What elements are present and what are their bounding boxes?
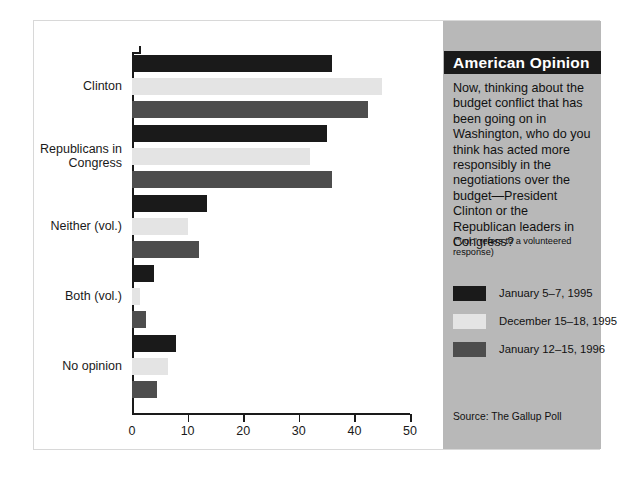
category-label: Clinton [83, 79, 122, 93]
x-tick-30 [299, 414, 301, 422]
chart-legend: January 5–7, 1995December 15–18, 1995Jan… [453, 279, 598, 363]
x-tick-label-10: 10 [181, 424, 195, 438]
x-tick-label-50: 50 [403, 424, 417, 438]
bar [132, 358, 168, 375]
legend-item: January 12–15, 1996 [453, 335, 598, 363]
legend-item: December 15–18, 1995 [453, 307, 598, 335]
x-tick-20 [243, 414, 245, 422]
bar [132, 148, 310, 165]
x-tick-40 [354, 414, 356, 422]
x-tick-label-30: 30 [292, 424, 306, 438]
legend-label: January 5–7, 1995 [499, 287, 593, 299]
poll-question-text: Now, thinking about the budget conflict … [453, 81, 593, 250]
bar [132, 78, 382, 95]
bar [132, 218, 188, 235]
legend-item: January 5–7, 1995 [453, 279, 598, 307]
bar [132, 335, 176, 352]
american-opinion-panel: American Opinion Now, thinking about the… [443, 21, 601, 449]
panel-title: American Opinion [444, 51, 601, 74]
bar [132, 125, 327, 142]
category-label: Republicans in Congress [40, 142, 122, 170]
bar [132, 171, 332, 188]
category-label: Both (vol.) [65, 289, 122, 303]
chart-area: 01020304050 ClintonRepublicans in Congre… [34, 21, 443, 449]
legend-label: January 12–15, 1996 [499, 343, 605, 355]
x-tick-label-20: 20 [236, 424, 250, 438]
bar [132, 241, 199, 258]
bar [132, 55, 332, 72]
x-tick-50 [410, 414, 412, 422]
poll-footnote: ("vol." refers to a volunteered response… [453, 236, 595, 258]
category-label: Neither (vol.) [50, 219, 122, 233]
axis-top-stub-horizontal [132, 52, 141, 54]
legend-label: December 15–18, 1995 [499, 315, 617, 327]
bar [132, 381, 157, 398]
source-credit: Source: The Gallup Poll [453, 411, 562, 422]
bar [132, 195, 207, 212]
figure-frame: 01020304050 ClintonRepublicans in Congre… [33, 20, 600, 450]
bar [132, 101, 368, 118]
x-tick-10 [188, 414, 190, 422]
legend-swatch [453, 314, 486, 329]
x-tick-label-0: 0 [129, 424, 136, 438]
legend-swatch [453, 286, 486, 301]
x-axis-line [132, 413, 410, 415]
bar [132, 311, 146, 328]
x-tick-label-40: 40 [347, 424, 361, 438]
category-label: No opinion [62, 359, 122, 373]
bar [132, 288, 140, 305]
bar [132, 265, 154, 282]
legend-swatch [453, 342, 486, 357]
